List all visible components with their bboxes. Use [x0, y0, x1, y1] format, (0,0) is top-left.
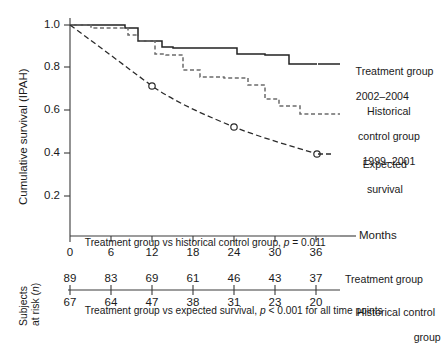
risk-control-value-6: 64 — [98, 296, 124, 308]
risk-control-value-12: 47 — [139, 296, 165, 308]
y-tick-label-0.2: 0.2 — [30, 189, 60, 201]
risk-title-line1: Subjects — [18, 286, 29, 326]
y-tick-label-0.6: 0.6 — [30, 103, 60, 115]
risk-control-value-36: 20 — [303, 296, 329, 308]
legend-historical-line2: control group — [358, 130, 420, 142]
risk-title-line2-a: at risk ( — [30, 292, 41, 326]
risk-treatment-value-12: 69 — [139, 272, 165, 284]
risk-treatment-value-18: 61 — [180, 272, 206, 284]
risk-control-value-30: 23 — [262, 296, 288, 308]
y-axis-title: Cumulative survival (IPAH) — [17, 68, 29, 205]
risk-control-value-0: 67 — [57, 296, 83, 308]
risk-row-label-treatment: Treatment group — [345, 273, 423, 285]
risk-control-value-18: 38 — [180, 296, 206, 308]
annot-1-text-b: = 0.011 — [289, 237, 325, 248]
y-tick-label-1.0: 1.0 — [30, 18, 60, 30]
marker-24-months — [231, 124, 237, 130]
annot-1-text-a: Treatment group vs historical control gr… — [85, 237, 284, 248]
risk-row-label-control: Historical control group — [345, 294, 429, 347]
p-value-annotation-line-1: Treatment group vs historical control gr… — [68, 223, 383, 263]
risk-treatment-value-36: 37 — [303, 272, 329, 284]
risk-treatment-value-0: 89 — [57, 272, 83, 284]
y-axis-ticks — [64, 25, 70, 196]
series-treatment-group-curve — [70, 25, 317, 64]
legend-historical-line1: Historical — [367, 105, 411, 117]
legend-expected-line2: survival — [367, 183, 403, 195]
y-tick-label-0.4: 0.4 — [30, 146, 60, 158]
risk-control-label-line1: Historical control — [357, 306, 435, 318]
series-historical-control-curve — [70, 25, 317, 114]
risk-treatment-value-30: 43 — [262, 272, 288, 284]
risk-control-value-24: 31 — [221, 296, 247, 308]
risk-title-line2-b: ) — [30, 283, 41, 286]
expected-survival-markers — [149, 83, 320, 157]
marker-12-months — [149, 83, 155, 89]
risk-control-label-line2: group — [357, 331, 445, 343]
risk-title-n-symbol: n — [30, 286, 41, 292]
risk-treatment-value-6: 83 — [98, 272, 124, 284]
legend-treatment-line1: Treatment group — [356, 65, 434, 77]
legend-expected-line1: Expected — [363, 158, 407, 170]
risk-table-title: Subjects at risk (n) — [18, 283, 41, 326]
series-expected-survival-curve — [70, 25, 317, 154]
risk-treatment-value-24: 46 — [221, 272, 247, 284]
y-tick-label-0.8: 0.8 — [30, 60, 60, 72]
